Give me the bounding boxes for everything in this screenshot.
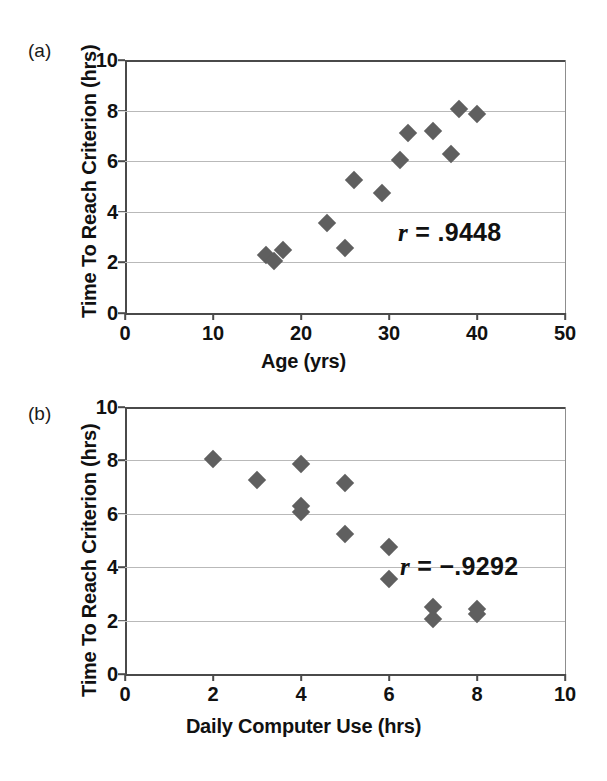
- gridline-y-4: [125, 212, 565, 213]
- y-axis-line-b: [125, 407, 127, 674]
- data-point: [318, 214, 336, 232]
- x-tick-mark-30: [388, 313, 390, 320]
- gridline-y-2: [125, 262, 565, 263]
- x-tick-label-0: 0: [119, 322, 130, 345]
- panel-b: (b) Time To Reach Criterion (hrs) 024681…: [0, 385, 607, 781]
- x-tick-label-4: 4: [295, 683, 306, 706]
- x-tick-label-20: 20: [290, 322, 312, 345]
- gridline-y-10: [125, 407, 565, 409]
- x-tick-label-0: 0: [119, 683, 130, 706]
- correlation-annotation-b: r = −.9292: [400, 552, 518, 581]
- gridline-y-8: [125, 460, 565, 461]
- y-tick-mark-8: [118, 110, 125, 112]
- y-tick-mark-6: [118, 160, 125, 162]
- x-tick-label-2: 2: [207, 683, 218, 706]
- gridline-y-6: [125, 161, 565, 162]
- data-point: [336, 474, 354, 492]
- plot-area-b: 02468100246810: [125, 407, 565, 674]
- gridline-y-0: [125, 674, 565, 676]
- y-tick-label-4: 4: [107, 200, 118, 223]
- x-tick-label-10: 10: [202, 322, 224, 345]
- data-point: [380, 570, 398, 588]
- gridline-y-8: [125, 111, 565, 112]
- y-axis-title-a: Time To Reach Criterion (hrs): [78, 44, 101, 318]
- x-tick-mark-50: [564, 313, 566, 320]
- x-tick-mark-10: [564, 674, 566, 681]
- gridline-y-2: [125, 621, 565, 622]
- x-tick-mark-40: [476, 313, 478, 320]
- data-point: [292, 455, 310, 473]
- right-axis-line-b: [565, 407, 566, 674]
- data-point: [424, 610, 442, 628]
- r-symbol-a: r: [398, 219, 408, 246]
- y-tick-label-10: 10: [96, 396, 118, 419]
- data-point: [380, 538, 398, 556]
- y-tick-mark-4: [118, 211, 125, 213]
- data-point: [450, 100, 468, 118]
- data-point: [373, 184, 391, 202]
- y-tick-label-2: 2: [107, 251, 118, 274]
- data-point: [424, 122, 442, 140]
- plot-area-a: 024681001020304050: [125, 60, 565, 313]
- data-point: [390, 151, 408, 169]
- y-tick-mark-2: [118, 620, 125, 622]
- y-tick-mark-8: [118, 460, 125, 462]
- x-tick-mark-2: [212, 674, 214, 681]
- r-value-a: = .9448: [415, 218, 501, 246]
- correlation-annotation-a: r = .9448: [398, 218, 502, 247]
- x-tick-label-6: 6: [383, 683, 394, 706]
- y-tick-label-2: 2: [107, 609, 118, 632]
- y-tick-label-0: 0: [107, 663, 118, 686]
- y-tick-mark-2: [118, 262, 125, 264]
- y-tick-label-6: 6: [107, 150, 118, 173]
- x-tick-mark-0: [124, 674, 126, 681]
- y-tick-label-6: 6: [107, 502, 118, 525]
- x-tick-label-8: 8: [471, 683, 482, 706]
- y-tick-label-4: 4: [107, 556, 118, 579]
- x-tick-mark-4: [300, 674, 302, 681]
- data-point: [399, 124, 417, 142]
- data-point: [468, 105, 486, 123]
- y-tick-mark-6: [118, 513, 125, 515]
- panel-a: (a) Time To Reach Criterion (hrs) 024681…: [0, 0, 607, 390]
- y-axis-title-b: Time To Reach Criterion (hrs): [78, 423, 101, 697]
- x-tick-label-30: 30: [378, 322, 400, 345]
- data-point: [336, 239, 354, 257]
- x-tick-label-10: 10: [554, 683, 576, 706]
- x-tick-label-40: 40: [466, 322, 488, 345]
- x-tick-mark-20: [300, 313, 302, 320]
- gridline-y-0: [125, 313, 565, 315]
- y-axis-line-a: [125, 60, 127, 313]
- data-point: [204, 450, 222, 468]
- x-axis-title-a: Age (yrs): [0, 350, 607, 373]
- y-tick-mark-10: [118, 59, 125, 61]
- y-tick-label-10: 10: [96, 49, 118, 72]
- y-tick-label-0: 0: [107, 302, 118, 325]
- y-tick-label-8: 8: [107, 99, 118, 122]
- x-tick-mark-10: [212, 313, 214, 320]
- panel-label-a: (a): [28, 40, 51, 62]
- data-point: [345, 171, 363, 189]
- y-tick-label-8: 8: [107, 449, 118, 472]
- gridline-y-6: [125, 514, 565, 515]
- x-tick-label-50: 50: [554, 322, 576, 345]
- gridline-y-10: [125, 60, 565, 62]
- right-axis-line-a: [565, 60, 566, 313]
- x-axis-title-b: Daily Computer Use (hrs): [0, 715, 607, 738]
- x-tick-mark-6: [388, 674, 390, 681]
- r-symbol-b: r: [400, 553, 410, 580]
- x-tick-mark-0: [124, 313, 126, 320]
- r-value-b: = −.9292: [417, 552, 518, 580]
- data-point: [248, 471, 266, 489]
- y-tick-mark-10: [118, 406, 125, 408]
- data-point: [336, 525, 354, 543]
- y-tick-mark-4: [118, 566, 125, 568]
- panel-label-b: (b): [28, 403, 51, 425]
- x-tick-mark-8: [476, 674, 478, 681]
